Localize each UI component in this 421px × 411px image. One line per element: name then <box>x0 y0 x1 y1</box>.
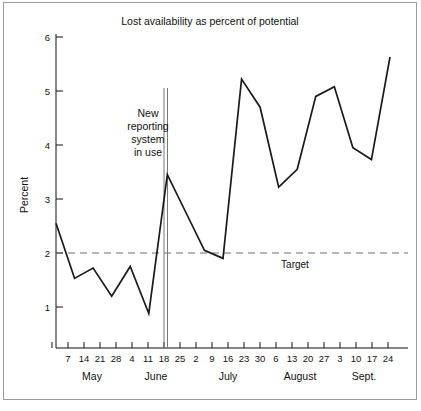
data-series-lost-availability <box>56 57 390 314</box>
x-tick-label-10: 16 <box>223 353 234 364</box>
chart-svg: Lost availability as percent of potentia… <box>0 0 421 411</box>
x-tick-label-3: 28 <box>111 353 122 364</box>
new-reporting-system-annotation: New reporting system in use <box>127 107 169 158</box>
y-tick-label-1: 1 <box>45 302 50 313</box>
x-tick-label-6: 18 <box>159 353 170 364</box>
x-tick-label-13: 6 <box>273 353 278 364</box>
x-tick-label-2: 21 <box>95 353 106 364</box>
x-tick-label-5: 11 <box>143 353 153 364</box>
chart-container: Lost availability as percent of potentia… <box>0 0 421 411</box>
y-tick-label-2: 2 <box>45 248 50 259</box>
x-axis-ticks: 714212841118252916233061320273101724 <box>52 342 393 364</box>
x-tick-label-12: 30 <box>255 353 266 364</box>
month-label-june: June <box>145 370 168 382</box>
annotation-line-4: in use <box>134 146 162 158</box>
x-tick-label-7: 25 <box>175 353 186 364</box>
x-tick-label-19: 17 <box>367 353 378 364</box>
x-tick-label-16: 27 <box>319 353 330 364</box>
y-tick-label-3: 3 <box>45 194 50 205</box>
chart-title: Lost availability as percent of potentia… <box>121 15 298 27</box>
y-tick-label-5: 5 <box>45 86 50 97</box>
y-axis-title: Percent <box>18 177 30 213</box>
x-tick-label-18: 10 <box>351 353 362 364</box>
y-tick-label-4: 4 <box>45 140 50 151</box>
month-label-july: July <box>219 370 238 382</box>
y-tick-label-6: 6 <box>45 32 50 43</box>
x-tick-label-20: 24 <box>383 353 394 364</box>
x-axis-month-labels: MayJuneJulyAugustSept. <box>82 370 376 382</box>
x-tick-label-8: 2 <box>193 353 198 364</box>
x-tick-label-9: 9 <box>209 353 214 364</box>
annotation-line-2: reporting <box>127 120 169 132</box>
month-label-sept: Sept. <box>352 370 377 382</box>
x-tick-label-4: 4 <box>129 353 134 364</box>
x-tick-label-1: 14 <box>79 353 90 364</box>
x-tick-label-15: 20 <box>303 353 314 364</box>
annotation-line-1: New <box>137 107 158 119</box>
annotation-line-3: system <box>131 133 165 145</box>
y-axis-ticks: 6 5 4 3 2 1 <box>45 32 63 313</box>
month-label-august: August <box>284 370 317 382</box>
x-tick-label-0: 7 <box>65 353 70 364</box>
month-label-may: May <box>82 370 103 382</box>
x-tick-label-17: 3 <box>337 353 342 364</box>
x-tick-label-11: 23 <box>239 353 250 364</box>
x-tick-label-14: 13 <box>287 353 298 364</box>
target-label: Target <box>281 259 309 270</box>
